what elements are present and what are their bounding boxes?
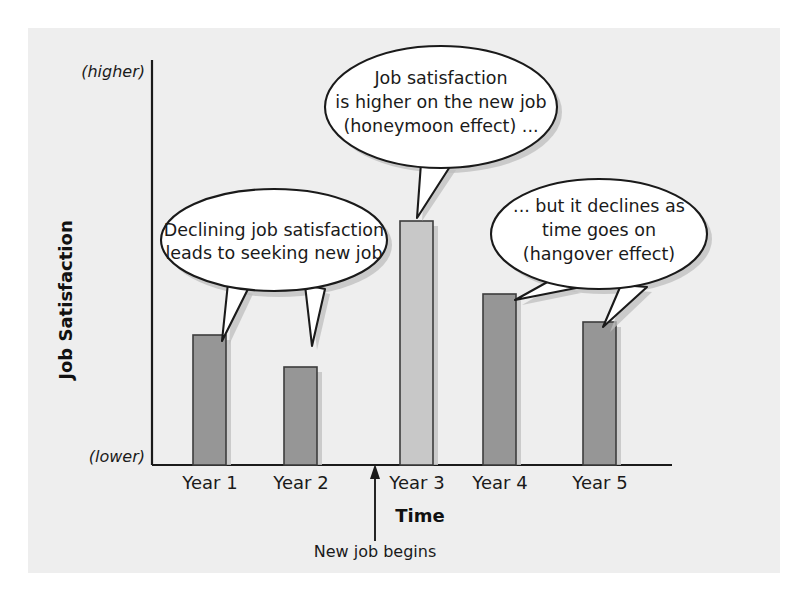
bar-year-3[interactable] <box>400 221 433 465</box>
x-tick-label-year-2: Year 2 <box>272 472 328 493</box>
new-job-arrow-head <box>370 464 380 479</box>
callout-declining-satisfaction[interactable]: Declining job satisfaction leads to seek… <box>161 189 392 350</box>
callout-2-line-3: (honeymoon effect) ... <box>343 116 538 136</box>
callout-2-line-2: is higher on the new job <box>335 92 546 112</box>
x-tick-label-year-4: Year 4 <box>471 472 527 493</box>
y-axis-lower-label: (lower) <box>89 447 145 466</box>
bar-year-2[interactable] <box>284 367 317 465</box>
callout-1-line-2: leads to seeking new job <box>165 243 382 263</box>
x-tick-label-year-5: Year 5 <box>571 472 627 493</box>
callout-1-bubble <box>161 189 387 291</box>
x-tick-label-year-3: Year 3 <box>388 472 444 493</box>
job-satisfaction-bar-chart: Job Satisfaction (higher) (lower) Year 1… <box>0 0 803 602</box>
new-job-begins-label: New job begins <box>314 542 437 561</box>
callout-3-line-3: (hangover effect) <box>523 244 675 264</box>
bar-year-4[interactable] <box>483 294 516 465</box>
x-tick-label-year-1: Year 1 <box>181 472 237 493</box>
callout-3-line-2: time goes on <box>542 220 656 240</box>
y-axis-title: Job Satisfaction <box>55 220 76 381</box>
x-axis-title: Time <box>395 505 444 526</box>
bar-year-5[interactable] <box>583 322 616 465</box>
y-axis-higher-label: (higher) <box>81 62 145 81</box>
callout-2-line-1: Job satisfaction <box>373 68 507 88</box>
figure-container: Job Satisfaction (higher) (lower) Year 1… <box>0 0 803 602</box>
callout-3-line-1: ... but it declines as <box>513 196 685 216</box>
callout-2-tail-year-3 <box>417 163 451 218</box>
callout-hangover-effect[interactable]: ... but it declines as time goes on (han… <box>491 179 712 332</box>
bar-year-1[interactable] <box>193 335 226 465</box>
callout-1-line-1: Declining job satisfaction <box>164 220 384 240</box>
